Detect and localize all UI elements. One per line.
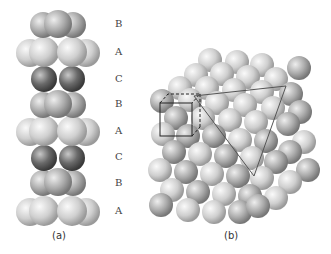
caption-b: (b) <box>224 230 238 241</box>
layer-b-2 <box>30 90 86 118</box>
layer-a-bottom <box>16 196 100 226</box>
panel-a-stack <box>16 10 100 226</box>
layer-label-5: A <box>115 125 122 136</box>
layer-label-8: A <box>115 205 122 216</box>
layer-label-1: B <box>115 18 122 29</box>
layer-label-6: C <box>115 151 123 162</box>
caption-a: (a) <box>52 230 66 241</box>
layer-label-7: B <box>115 177 122 188</box>
figure-canvas <box>0 0 331 254</box>
layer-c-1 <box>31 66 85 92</box>
layer-a-1 <box>16 37 100 67</box>
layer-b-3 <box>30 168 86 196</box>
layer-label-4: B <box>115 98 122 109</box>
layer-a-2 <box>16 116 100 146</box>
layer-label-3: C <box>115 73 123 84</box>
layer-label-2: A <box>115 46 122 57</box>
layer-c-2 <box>31 145 85 171</box>
layer-b-1 <box>30 10 86 38</box>
